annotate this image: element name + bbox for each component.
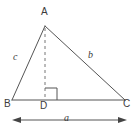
dimension-arrow-left-head-icon (12, 117, 21, 123)
side-label-c: c (13, 52, 17, 62)
triangle-side-c-line (12, 26, 45, 100)
triangle-diagram-svg (0, 0, 140, 130)
vertex-label-d: D (40, 101, 47, 111)
dimension-label-a: a (64, 113, 69, 123)
dimension-arrow-right-head-icon (118, 117, 127, 123)
geometry-figure: A B C D b c a (0, 0, 140, 130)
side-label-b: b (88, 50, 93, 60)
vertex-label-a: A (41, 7, 48, 17)
right-angle-marker (45, 88, 57, 100)
vertex-label-b: B (4, 99, 11, 109)
vertex-label-c: C (123, 99, 130, 109)
